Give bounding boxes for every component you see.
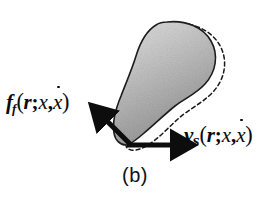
friction-force-arg-r: r	[24, 90, 32, 114]
slip-velocity-arg-xdot: x	[236, 125, 245, 146]
friction-force-open-paren: (	[16, 89, 23, 114]
friction-force-arg-x: x	[39, 90, 48, 114]
friction-force-close-paren: )	[62, 89, 69, 114]
slip-velocity-open-paren: (	[200, 122, 207, 147]
slip-velocity-arg-r: r	[207, 123, 215, 147]
friction-force-label: ff(r;x,x)	[6, 91, 69, 115]
friction-force-arg-xdot: x	[53, 92, 62, 113]
slip-velocity-sep-1: ;	[215, 123, 222, 147]
slip-velocity-close-paren: )	[245, 122, 252, 147]
figure-caption: (b)	[0, 164, 270, 187]
friction-force-sep-1: ;	[32, 90, 39, 114]
figure-panel-b: ff(r;x,x) vS(r;x,x) (b)	[0, 0, 270, 201]
slip-velocity-subscript: S	[192, 134, 199, 149]
slip-velocity-label: vS(r;x,x)	[184, 124, 253, 148]
slip-velocity-arg-x: x	[222, 123, 231, 147]
